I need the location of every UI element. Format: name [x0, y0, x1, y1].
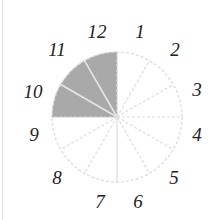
hour-label-3: 3: [191, 79, 202, 100]
hour-label-10: 10: [24, 81, 44, 102]
hour-label-8: 8: [52, 167, 62, 188]
hour-label-9: 9: [29, 124, 39, 145]
hour-label-7: 7: [95, 191, 106, 212]
hour-label-2: 2: [170, 39, 180, 60]
hour-label-12: 12: [88, 21, 108, 42]
spoke-line: [117, 117, 150, 173]
hour-label-1: 1: [135, 21, 145, 42]
spoke-line: [61, 117, 117, 150]
spoke-line: [117, 61, 150, 117]
fraction-circle-diagram: 121234567891011: [0, 0, 223, 220]
spoke-line: [85, 117, 118, 173]
hour-label-6: 6: [133, 191, 143, 212]
spoke-line: [117, 117, 173, 150]
spoke-line: [117, 85, 173, 118]
hour-label-4: 4: [192, 124, 202, 145]
hour-label-5: 5: [169, 167, 179, 188]
hour-label-11: 11: [48, 39, 66, 60]
